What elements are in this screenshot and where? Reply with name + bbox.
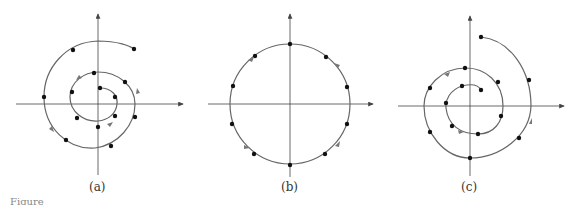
sample-points bbox=[428, 35, 531, 160]
direction-arrows bbox=[244, 57, 340, 149]
panel-b bbox=[208, 14, 373, 177]
panel-label-c: (c) bbox=[461, 180, 477, 194]
spiral-curve bbox=[424, 37, 531, 158]
spiral-curve bbox=[44, 41, 135, 148]
figure-caption: Figure bbox=[10, 196, 44, 205]
panel-label-b: (b) bbox=[281, 180, 298, 194]
panel-label-a: (a) bbox=[89, 180, 106, 194]
direction-arrows bbox=[444, 72, 532, 134]
panel-a bbox=[16, 14, 183, 175]
panel-c bbox=[398, 16, 564, 176]
figure-canvas bbox=[0, 0, 578, 205]
